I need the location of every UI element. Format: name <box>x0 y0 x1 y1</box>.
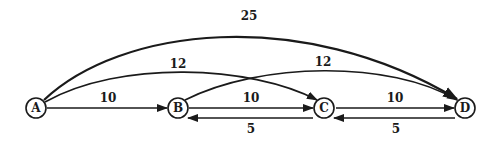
node-b-label: B <box>173 101 183 115</box>
node-d: D <box>455 98 475 118</box>
node-a-label: A <box>30 101 41 115</box>
edge-label-a-d: 25 <box>241 9 258 23</box>
node-b: B <box>168 98 188 118</box>
graph-diagram: 25 12 12 10 10 10 5 5 A B C D <box>0 0 490 143</box>
edge-label-c-d: 10 <box>387 91 404 105</box>
edge-label-c-b: 5 <box>247 122 255 136</box>
node-c-label: C <box>319 101 329 115</box>
node-d-label: D <box>460 101 470 115</box>
edge-label-d-c: 5 <box>392 122 400 136</box>
node-c: C <box>314 98 334 118</box>
edge-a-c <box>45 72 317 102</box>
edge-label-b-c: 10 <box>243 91 260 105</box>
edge-label-a-b: 10 <box>100 91 117 105</box>
node-a: A <box>26 98 46 118</box>
edge-label-a-c: 12 <box>170 57 187 71</box>
edge-label-b-d: 12 <box>315 55 332 69</box>
